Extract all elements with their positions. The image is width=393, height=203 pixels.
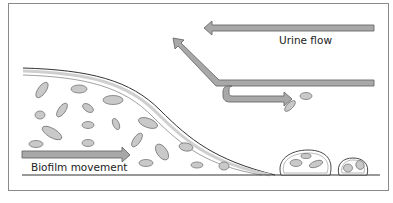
bacterium-cell [82, 122, 94, 129]
bacterium-cell [103, 96, 123, 105]
urine-flow-label: Urine flow [279, 34, 332, 46]
bacterium-cell [71, 85, 87, 93]
bacterium-cell [290, 160, 302, 167]
biofilm-movement-label: Biofilm movement [31, 161, 127, 173]
bacterium-cell [344, 164, 353, 172]
detached-bacterium [300, 93, 312, 100]
biofilm-diagram: Urine flow Biofilm movement [0, 0, 393, 203]
bacterium-cell [29, 141, 43, 148]
bacterium-cell [219, 162, 229, 170]
bacterium-cell [35, 111, 45, 119]
bacterium-cell [82, 140, 94, 147]
bacterium-cell [191, 162, 203, 168]
microcolony-small [338, 158, 367, 175]
bacterium-cell [139, 160, 153, 167]
bacterium-cell [301, 154, 311, 159]
